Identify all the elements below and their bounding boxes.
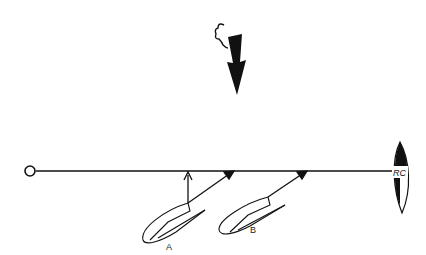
wind-arrow-icon [215, 24, 246, 95]
boat-a-arrows [184, 171, 234, 203]
boat-a-label: A [166, 242, 172, 252]
boat-b-arrow [268, 171, 307, 197]
boat-a [143, 203, 205, 243]
boat-b-label: B [250, 225, 256, 235]
committee-boat-label: RC [393, 168, 406, 178]
pin-buoy-icon [25, 166, 35, 176]
start-line-diagram: A B RC [0, 0, 426, 255]
